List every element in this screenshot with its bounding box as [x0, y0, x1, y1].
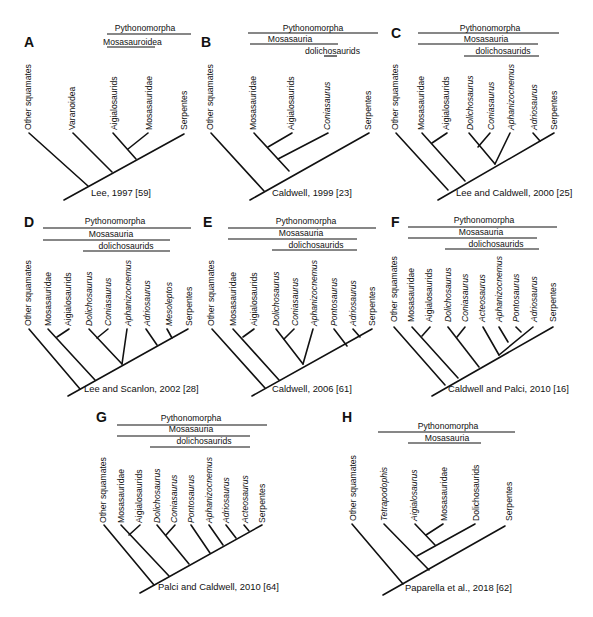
panel-letter: G — [96, 409, 107, 425]
taxon-label: Aigialosaurus — [409, 469, 419, 522]
taxon-label: Aphanizocnemus — [309, 259, 319, 327]
clade-label-pythonomorpha: Pythonomorpha — [85, 216, 146, 226]
clade-label-dolichosaurids: dolichosaurids — [177, 436, 232, 446]
clade-label-dolichosaurids: dolichosaurids — [99, 241, 154, 251]
taxon-label: Dolichosaurus — [443, 267, 453, 322]
clade-label-pythonomorpha: Pythonomorpha — [115, 23, 176, 33]
taxon-label: Other squamates — [348, 455, 358, 521]
citation: Lee and Caldwell, 2000 [25] — [456, 187, 572, 198]
taxon-label: Mosasauridae — [43, 272, 53, 326]
panel-letter: A — [24, 34, 34, 50]
taxon-label: Coniasaurus — [322, 81, 332, 130]
clade-label-mosasauroidea: Mosasauroidea — [103, 37, 162, 47]
taxon-label: Other squamates — [389, 256, 399, 322]
taxon-label: Aphanizocnemus — [204, 456, 214, 524]
clade-label-pythonomorpha: Pythonomorpha — [418, 421, 479, 431]
taxon-label: Aigialosaurids — [441, 76, 451, 130]
panel-letter: D — [24, 214, 34, 230]
taxon-label: Aigialosaurids — [249, 272, 259, 326]
taxon-label: Mosasauridae — [416, 76, 426, 130]
clade-label-mosasauria: Mosasauria — [459, 227, 504, 237]
citation: Palci and Caldwell, 2010 [64] — [158, 581, 279, 592]
taxon-label: Coniasaurus — [290, 277, 300, 326]
clade-label-mosasauria: Mosasauria — [89, 229, 134, 239]
panel-a: A Pythonomorpha Mosasauroidea Other squa… — [23, 23, 191, 200]
citation: Caldwell and Palci, 2010 [16] — [448, 383, 569, 394]
taxon-label: Serpentes — [367, 287, 377, 326]
taxon-label: Adriosaurus — [529, 83, 539, 131]
taxon-label: Dolichosaurus — [152, 468, 162, 523]
citation: Lee and Scanlon, 2002 [28] — [84, 383, 199, 394]
citation: Caldwell, 2006 [61] — [272, 383, 352, 394]
taxon-label: Mosasauridae — [248, 76, 258, 130]
clade-label-dolichosaurids: dolichosaurids — [289, 240, 344, 250]
taxon-label: Pontosaurus — [329, 277, 339, 326]
panel-f: F Pythonomorpha Mosasauria dolichosaurid… — [389, 214, 569, 396]
taxon-label: Dolichosaurus — [465, 75, 475, 130]
taxon-label: Aigialosaurids — [134, 469, 144, 523]
clade-label-mosasauria: Mosasauria — [169, 424, 214, 434]
taxon-label: Adriosaurus — [348, 279, 358, 327]
taxon-label: Mosasauridae — [406, 268, 416, 322]
citation: Caldwell, 1999 [23] — [272, 187, 352, 198]
taxon-label: Dolichosaurus — [84, 271, 94, 326]
panel-letter: C — [391, 25, 401, 41]
clade-label-pythonomorpha: Pythonomorpha — [454, 215, 515, 225]
taxon-label: Mosasauridae — [144, 76, 154, 130]
taxon-label: Other squamates — [23, 260, 33, 326]
taxon-label: Other squamates — [205, 64, 215, 130]
panel-letter: H — [342, 409, 352, 425]
taxon-label: Serpentes — [504, 482, 514, 521]
taxon-label: Other squamates — [23, 64, 33, 130]
citation: Lee, 1997 [59] — [91, 187, 151, 198]
taxon-label: Varanoidea — [67, 86, 77, 130]
panel-d: D Pythonomorpha Mosasauria dolichosaurid… — [23, 214, 199, 396]
taxon-label: Coniasaurus — [169, 474, 179, 523]
taxon-label: Coniasaurus — [460, 273, 470, 322]
taxon-label: Adriosaurus — [529, 275, 539, 323]
taxon-label: Aigialosaurids — [424, 268, 434, 322]
taxon-label: Mesoleptos — [164, 281, 174, 326]
panel-g: G Pythonomorpha Mosasauria dolichosaurid… — [96, 409, 279, 593]
taxon-label: Coniasaurus — [103, 277, 113, 326]
clade-label-dolichosaurids: dolichosaurids — [305, 46, 360, 56]
panel-letter: F — [391, 214, 400, 230]
taxon-label: Aphanizocnemus — [123, 259, 133, 327]
taxon-label: Mosasauridae — [439, 467, 449, 521]
taxon-label: Aphanizocnemus — [494, 255, 504, 323]
taxon-label: Mosasauridae — [228, 272, 238, 326]
taxon-label: Tetrapodophis — [379, 466, 389, 521]
clade-label-dolichosaurids: dolichosaurids — [476, 46, 531, 56]
taxon-label: Dolichosaurids — [471, 465, 481, 521]
clade-label-pythonomorpha: Pythonomorpha — [283, 23, 344, 33]
panel-letter: B — [201, 34, 211, 50]
taxon-label: Adriosaurus — [142, 279, 152, 327]
clade-label-mosasauria: Mosasauria — [425, 433, 470, 443]
taxon-label: Aigialosaurids — [109, 76, 119, 130]
clade-label-pythonomorpha: Pythonomorpha — [276, 216, 337, 226]
panel-e: E Pythonomorpha Mosasauria dolichosaurid… — [203, 214, 377, 396]
taxon-label: Serpentes — [184, 287, 194, 326]
taxon-label: Mosasauridae — [116, 469, 126, 523]
taxon-label: Other squamates — [390, 64, 400, 130]
taxon-label: Serpentes — [549, 91, 559, 130]
taxon-label: Serpentes — [179, 91, 189, 130]
cladogram-figure: A Pythonomorpha Mosasauroidea Other squa… — [0, 0, 593, 617]
clade-label-dolichosaurids: dolichosaurids — [469, 239, 524, 249]
clade-label-pythonomorpha: Pythonomorpha — [460, 23, 521, 33]
panel-h: H Pythonomorpha Mosasauria Other squamat… — [342, 409, 515, 595]
taxon-label: Dolichosaurus — [271, 271, 281, 326]
panel-c: C Pythonomorpha Mosasauria dolichosaurid… — [390, 23, 572, 200]
panel-letter: E — [203, 214, 212, 230]
taxon-label: Acteosaurus — [240, 475, 250, 524]
clade-label-pythonomorpha: Pythonomorpha — [161, 413, 222, 423]
clade-label-mosasauria: Mosasauria — [279, 228, 324, 238]
taxon-label: Aigialosaurids — [63, 272, 73, 326]
clade-label-mosasauria: Mosasauria — [464, 34, 509, 44]
panel-b: B Pythonomorpha Mosasauria dolichosaurid… — [201, 23, 378, 200]
taxon-label: Coniasaurus — [486, 81, 496, 130]
taxon-label: Aphanizocnemus — [506, 63, 516, 131]
taxon-label: Pontosaurus — [186, 474, 196, 523]
taxon-label: Other squamates — [98, 457, 108, 523]
taxon-label: Pontosaurus — [511, 273, 521, 322]
